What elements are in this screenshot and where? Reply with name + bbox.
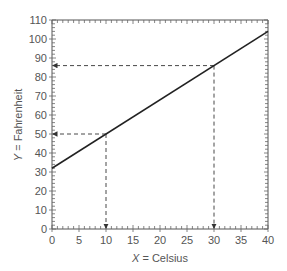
y-axis-label: Y = Fahrenheit: [12, 89, 24, 161]
x-tick-label: 35: [235, 234, 247, 246]
x-tick-label: 20: [154, 234, 166, 246]
y-tick-label: 20: [35, 185, 47, 197]
y-tick-label: 40: [35, 147, 47, 159]
x-tick-label: 10: [100, 234, 112, 246]
x-tick-label: 40: [262, 234, 274, 246]
y-tick-label: 60: [35, 109, 47, 121]
axes: 0510152025303540010203040506070809010011…: [29, 14, 274, 246]
y-tick-label: 10: [35, 204, 47, 216]
y-tick-label: 80: [35, 71, 47, 83]
x-tick-label: 15: [127, 234, 139, 246]
data-series: [52, 31, 268, 168]
y-tick-label: 0: [41, 223, 47, 235]
y-tick-label: 70: [35, 90, 47, 102]
x-tick-label: 0: [49, 234, 55, 246]
y-tick-label: 30: [35, 166, 47, 178]
x-axis-label: X = Celsius: [131, 252, 188, 264]
y-tick-label: 50: [35, 128, 47, 140]
x-tick-label: 5: [76, 234, 82, 246]
y-tick-label: 90: [35, 52, 47, 64]
y-tick-label: 100: [29, 33, 47, 45]
x-tick-label: 25: [181, 234, 193, 246]
conversion-line: [52, 31, 268, 168]
y-tick-label: 110: [29, 14, 47, 26]
guide-lines: [53, 66, 214, 228]
chart-plot: 0510152025303540010203040506070809010011…: [0, 0, 287, 271]
x-tick-label: 30: [208, 234, 220, 246]
